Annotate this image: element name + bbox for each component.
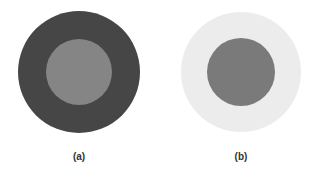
panel-b: (b) — [0, 0, 311, 175]
caption-b: (b) — [221, 151, 261, 163]
inner-circle-b — [207, 38, 275, 106]
